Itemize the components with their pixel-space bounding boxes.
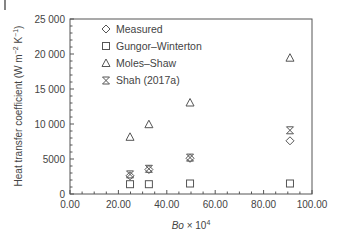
asterisk-marker-icon bbox=[103, 77, 110, 84]
legend-label: Gungor–Winterton bbox=[116, 40, 202, 52]
square-marker-icon bbox=[103, 43, 110, 50]
legend-label: Shah (2017a) bbox=[116, 74, 180, 86]
x-tick-label: 0.00 bbox=[60, 199, 80, 210]
diamond-marker-icon bbox=[102, 25, 110, 33]
triangle-marker-icon bbox=[102, 59, 110, 67]
shah-2017a-point bbox=[286, 127, 293, 134]
shah-2017a-point bbox=[187, 154, 194, 161]
y-tick-label: 15 000 bbox=[34, 84, 65, 95]
x-tick-label: 100.00 bbox=[297, 199, 328, 210]
moles-shaw-point bbox=[145, 120, 153, 128]
moles-shaw-point bbox=[186, 99, 194, 107]
legend-item-shah: Shah (2017a) bbox=[103, 74, 180, 86]
moles-shaw-point bbox=[126, 133, 134, 141]
legend-item-measured: Measured bbox=[102, 23, 163, 35]
x-axis-title: Bo × 104 bbox=[172, 219, 211, 231]
y-tick-label: 5000 bbox=[43, 154, 66, 165]
gungor-winterton-point bbox=[187, 180, 194, 187]
measured-point bbox=[126, 172, 134, 180]
gungor-winterton-point bbox=[127, 181, 134, 188]
gungor-winterton-point bbox=[286, 180, 293, 187]
legend-item-moles-shaw: Moles–Shaw bbox=[102, 57, 177, 69]
legend-label: Measured bbox=[116, 23, 163, 35]
x-tick-label: 40.00 bbox=[154, 199, 179, 210]
y-tick-label: 10 000 bbox=[34, 119, 65, 130]
x-tick-label: 20.00 bbox=[106, 199, 131, 210]
y-axis-tick-labels: 0500010 00015 00020 00025 000 bbox=[34, 14, 65, 200]
x-axis-ticks bbox=[70, 190, 312, 194]
y-tick-label: 0 bbox=[59, 189, 65, 200]
y-tick-label: 20 000 bbox=[34, 49, 65, 60]
measured-point bbox=[286, 137, 294, 145]
y-axis-title: Heat transfer coefficient (W m−2 K−1) bbox=[12, 26, 24, 187]
scatter-chart: 0500010 00015 00020 00025 000 0.0020.004… bbox=[0, 0, 342, 238]
legend-label: Moles–Shaw bbox=[116, 57, 177, 69]
x-tick-label: 80.00 bbox=[251, 199, 276, 210]
moles-shaw-point bbox=[286, 54, 294, 62]
x-axis-tick-labels: 0.0020.0040.0060.0080.00100.00 bbox=[60, 199, 327, 210]
gungor-winterton-point bbox=[145, 181, 152, 188]
y-tick-label: 25 000 bbox=[34, 14, 65, 25]
legend-item-gungor-winterton: Gungor–Winterton bbox=[103, 40, 202, 52]
shah-2017a-point bbox=[145, 165, 152, 172]
x-tick-label: 60.00 bbox=[203, 199, 228, 210]
y-axis-ticks bbox=[70, 19, 74, 194]
legend: Measured Gungor–Winterton Moles–Shaw Sha… bbox=[102, 23, 202, 86]
